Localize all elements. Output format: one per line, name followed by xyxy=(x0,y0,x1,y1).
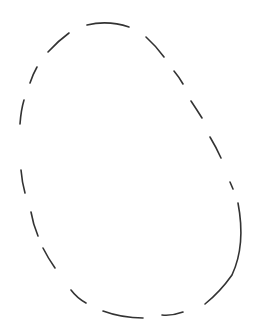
dashed-loop-diagram xyxy=(0,0,260,334)
background xyxy=(0,0,260,334)
